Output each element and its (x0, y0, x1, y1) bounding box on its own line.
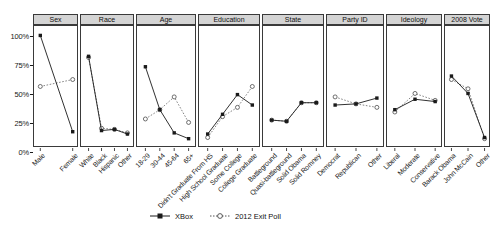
legend-label-xbox: XBox (175, 212, 193, 221)
data-point-xbox (113, 128, 116, 131)
data-point-exit-poll (38, 84, 42, 88)
panel-title-5: Party ID (326, 14, 384, 25)
data-point-xbox (315, 101, 318, 104)
panel-series-svg (137, 26, 197, 148)
data-point-xbox (144, 65, 147, 68)
panel-series-svg (445, 26, 491, 148)
data-point-xbox (354, 102, 357, 105)
panel-series-svg (34, 26, 79, 148)
data-point-exit-poll (235, 105, 239, 109)
x-tick-label: 18-29 (134, 152, 151, 169)
legend-entry-xbox: XBox (150, 212, 193, 221)
x-tick-label: Other (366, 152, 383, 169)
data-point-xbox (333, 103, 336, 106)
y-tick-label: 100% (0, 32, 29, 41)
series-line-exit-poll (208, 86, 253, 137)
series-line-exit-poll (89, 57, 128, 132)
chart-panel-sex: Sex (33, 14, 78, 141)
y-tick-label: 25% (0, 119, 29, 128)
x-tick-label: 65+ (182, 152, 195, 165)
x-tick-label: Female (58, 152, 79, 173)
legend-svg: XBox 2012 Exit Poll (148, 209, 348, 223)
data-point-xbox (221, 113, 224, 116)
y-tick-label: 0% (0, 148, 29, 157)
panel-plot-area (262, 25, 324, 147)
panel-title-3: Education (198, 14, 260, 25)
series-line-exit-poll (395, 93, 435, 112)
data-point-xbox (413, 98, 416, 101)
panel-plot-area (33, 25, 78, 147)
panel-title-7: 2008 Vote (444, 14, 490, 25)
y-tick-mark (30, 152, 33, 153)
panel-series-svg (199, 26, 261, 148)
data-point-exit-poll (250, 84, 254, 88)
series-line-exit-poll (145, 97, 188, 123)
data-point-xbox (450, 74, 453, 77)
chart-panel-education: Education (198, 14, 260, 141)
legend-marker-exitpoll (218, 214, 223, 219)
data-point-exit-poll (187, 120, 191, 124)
series-line-xbox (272, 103, 317, 122)
panel-series-svg (81, 26, 135, 148)
data-point-exit-poll (375, 105, 379, 109)
data-point-xbox (236, 93, 239, 96)
x-tick-label: Other (474, 152, 491, 169)
chart-root: 0%25%50%75%100% MaleFemaleSexWhiteBlackH… (0, 0, 492, 234)
panel-series-svg (263, 26, 325, 148)
data-point-xbox (270, 118, 273, 121)
chart-legend: XBox 2012 Exit Poll (148, 209, 348, 223)
data-point-xbox (285, 120, 288, 123)
data-point-exit-poll (143, 117, 147, 121)
panel-plot-area (444, 25, 490, 147)
series-line-xbox (89, 56, 128, 134)
legend-marker-xbox (158, 214, 163, 219)
panel-plot-area (198, 25, 260, 147)
panel-title-2: Age (136, 14, 196, 25)
panel-title-0: Sex (33, 14, 78, 25)
data-point-xbox (206, 132, 209, 135)
x-tick-label: 30-44 (149, 152, 166, 169)
data-point-xbox (126, 132, 129, 135)
data-point-exit-poll (71, 78, 75, 82)
data-point-xbox (71, 130, 74, 133)
panel-plot-area (326, 25, 384, 147)
panel-plot-area (386, 25, 442, 147)
data-point-xbox (300, 101, 303, 104)
chart-panel-state: State (262, 14, 324, 141)
data-point-xbox (433, 100, 436, 103)
data-point-xbox (158, 108, 161, 111)
x-tick-label: Other (117, 152, 134, 169)
data-point-xbox (251, 103, 254, 106)
data-point-xbox (87, 55, 90, 58)
data-point-xbox (393, 108, 396, 111)
data-point-xbox (375, 96, 378, 99)
data-point-xbox (466, 92, 469, 95)
panel-plot-area (80, 25, 134, 147)
data-point-xbox (173, 131, 176, 134)
y-tick-label: 75% (0, 61, 29, 70)
data-point-exit-poll (206, 136, 210, 140)
series-line-xbox (40, 35, 72, 131)
series-line-xbox (208, 95, 253, 134)
x-tick-label: Liberal (382, 152, 401, 171)
panel-title-4: State (262, 14, 324, 25)
data-point-xbox (100, 129, 103, 132)
chart-panel-ideology: Ideology (386, 14, 442, 141)
x-tick-label: White (78, 152, 95, 169)
x-tick-label: 45-64 (163, 152, 180, 169)
legend-label-exitpoll: 2012 Exit Poll (235, 212, 281, 221)
data-point-exit-poll (466, 87, 470, 91)
panel-title-6: Ideology (386, 14, 442, 25)
chart-panel-2008-vote: 2008 Vote (444, 14, 490, 141)
data-point-xbox (187, 137, 190, 140)
chart-panel-party-id: Party ID (326, 14, 384, 141)
chart-panel-age: Age (136, 14, 196, 141)
x-tick-label: Male (31, 152, 46, 167)
chart-panel-race: Race (80, 14, 134, 141)
panel-series-svg (327, 26, 385, 148)
series-line-xbox (145, 67, 188, 139)
data-point-xbox (483, 136, 486, 139)
data-point-exit-poll (413, 91, 417, 95)
series-line-xbox (451, 76, 484, 137)
panel-plot-area (136, 25, 196, 147)
